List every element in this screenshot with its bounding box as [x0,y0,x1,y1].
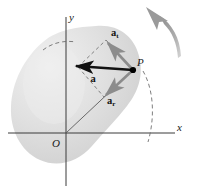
dashed-arc-right [143,71,152,142]
x-axis-label: x [176,121,182,133]
acceleration-components-figure: y x O P a at ar [0,0,197,193]
rotation-arrow-head-icon [146,7,168,30]
diagram-canvas: y x O P a at ar [0,0,197,193]
point-p-label: P [136,56,144,68]
blob-highlight [23,44,85,124]
origin-label: O [52,137,60,149]
vector-label-a: a [90,73,96,84]
point-p-marker [130,67,136,73]
rotation-direction-arrow [160,16,181,58]
y-axis-label: y [68,11,74,23]
